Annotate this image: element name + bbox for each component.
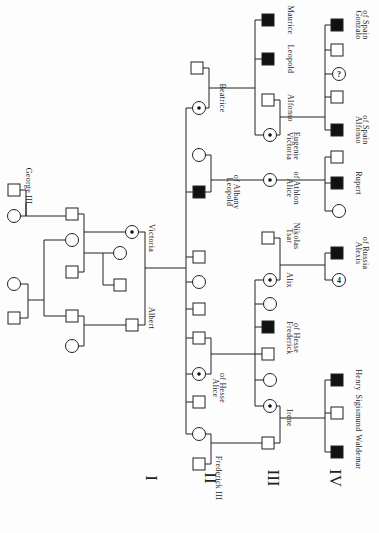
generation-label: III [264,470,283,487]
person-name-label: Irene [285,409,294,427]
pedigree-node-g3wife [8,210,21,223]
affected-male-icon [331,19,343,31]
pedigree-node-aunt1 [66,234,79,247]
pedigree-node-henry_pr [262,437,274,449]
male-icon [262,348,274,360]
unknown-status-icon: ? [337,70,341,79]
pedigree-node-alice_ath: Aliceof Athlon [264,171,302,204]
pedigree-node-sigismund: Sigismund [331,395,363,432]
affected-male-icon [331,374,343,386]
pedigree-node-beatrice_h [191,62,203,74]
female-icon [8,278,21,291]
carrier-dot-icon [268,404,272,408]
male-icon [193,396,205,408]
pedigree-chart: George IIIVictoriaAlbertBeatriceLeopoldo… [0,0,379,533]
person-name-label: of Athlon [292,171,301,204]
male-icon [191,62,203,74]
pedigree-node-ii_5 [193,251,205,263]
person-name-label: Alix [285,272,294,287]
pedigree-node-vsib1 [114,247,127,260]
person-name-label: Albert [147,307,156,330]
pedigree-node-ii_6 [193,276,206,289]
generation-label: I [142,475,161,481]
affected-male-icon [331,247,343,259]
pedigree-node-iv_s4 [331,91,343,103]
person-name-label: Rupert [354,171,363,195]
carrier-dot-icon [130,230,134,234]
female-icon [66,340,79,353]
person-name-label: of Russia [361,237,370,270]
carrier-dot-icon [197,106,201,110]
person-name-label: Maurice [286,6,295,35]
pedigree-node-ii_8 [193,332,205,344]
generation-labels: IIIIIIIV [142,469,345,488]
person-name-label: Eugenie [292,132,301,160]
male-icon [66,310,78,322]
carrier-dot-icon [197,372,201,376]
person-name-label: George III [24,168,33,204]
pedigree-nodes: George IIIVictoriaAlbertBeatriceLeopoldo… [8,6,371,501]
person-name-label: of Hesse [292,323,301,353]
pedigree-node-uncle1m [8,312,20,324]
person-name-label: of Albany [232,175,241,209]
male-icon [193,458,205,470]
generation-label: II [201,472,220,484]
male-icon [193,332,205,344]
pedigree-node-iv_s3: ? [333,68,346,81]
pedigree-node-albert: Albert [126,307,156,331]
pedigree-svg: George IIIVictoriaAlbertBeatriceLeopoldo… [0,0,379,533]
pedigree-node-uncle1 [8,278,21,291]
person-name-label: Alfonso [286,94,295,122]
pedigree-node-rupert: Rupert [331,171,363,195]
affected-male-icon [193,186,205,198]
affected-male-icon [262,321,274,333]
female-icon [114,247,127,260]
male-icon [331,151,343,163]
male-icon [193,303,205,315]
pedigree-node-iii_h4 [262,348,274,360]
pedigree-node-gonzalo: Gonzaloof Spain [331,10,370,39]
pedigree-node-alfonso13: Alfonso [262,94,295,122]
carrier-dot-icon [268,278,272,282]
male-icon [126,319,138,331]
affected-male-icon [331,177,343,189]
pedigree-node-edward [66,208,78,220]
person-name-label: of Spain [361,10,370,39]
male-icon [114,279,126,291]
pedigree-node-vsib2 [114,279,126,291]
count-label: 4 [337,276,341,285]
pedigree-node-iv_a3 [333,205,346,218]
pedigree-node-george3: George III [8,168,33,204]
pedigree-node-iv_a1 [331,151,343,163]
male-icon [66,266,78,278]
affected-male-icon [262,14,274,26]
person-name-label: of Hesse [218,373,227,403]
male-icon [262,94,274,106]
male-icon [66,208,78,220]
male-icon [331,407,343,419]
carrier-dot-icon [268,133,272,137]
pedigree-node-vicky [193,428,206,441]
pedigree-node-iv_r2: 4 [333,274,346,287]
pedigree-node-leopold_b: Leopold [262,45,295,74]
pedigree-node-iii_h2 [264,298,277,311]
person-name-label: Beatrice [218,83,227,112]
affected-male-icon [262,53,274,65]
person-name-label: Leopold [286,45,295,74]
pedigree-node-ernstw [66,340,79,353]
generation-label: IV [326,469,345,488]
pedigree-node-aunt2 [66,266,78,278]
pedigree-node-alexis: Alexisof Russia [331,237,370,270]
female-icon [193,149,206,162]
female-icon [264,374,277,387]
carrier-dot-icon [268,178,272,182]
pedigree-node-alfonso_sp: Alfonsoof Spain [331,115,370,144]
male-icon [8,184,20,196]
pedigree-node-ii_10 [193,396,205,408]
affected-male-icon [331,124,343,136]
person-name-label: Victoria [147,224,156,252]
female-icon [193,428,206,441]
pedigree-node-iv_s2 [331,44,343,56]
female-icon [333,205,346,218]
person-name-label: Waldemar [354,434,363,469]
